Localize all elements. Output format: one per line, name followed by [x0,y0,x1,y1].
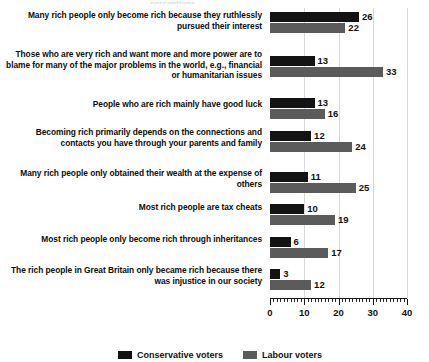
bar-value-label: 16 [328,109,339,119]
tick-minor [308,299,309,302]
x-tick-label: 20 [333,307,344,318]
tick-minor [400,299,401,302]
bar-lab [270,142,352,152]
legend-swatch [118,351,132,359]
bar-value-label: 24 [355,142,366,152]
tick-minor [277,299,278,302]
tick-minor [356,299,357,302]
bar-value-label: 19 [338,215,349,225]
bar-cons [270,98,315,108]
tick-minor [376,299,377,302]
tick-minor [328,299,329,302]
tick-minor [342,299,343,302]
tick-minor [318,299,319,302]
category-label: Many rich people only become rich becaus… [0,10,262,31]
category-label: Becoming rich primarily depends on the c… [0,127,262,148]
x-tick-label: 30 [367,307,378,318]
tick-major-30 [373,299,374,305]
tick-major-0 [270,299,271,305]
legend-item: Labour voters [243,350,322,360]
grouped-bar-chart: Many rich people only become rich becaus… [0,0,429,362]
tick-minor [280,299,281,302]
tick-minor [404,299,405,302]
tick-major-20 [339,299,340,305]
tick-minor [386,299,387,302]
bar-value-label: 10 [307,204,318,214]
x-axis: 010203040 [270,298,407,322]
bar-lab [270,215,335,225]
x-tick-label: 40 [402,307,413,318]
bar-group: 312 [270,269,407,293]
legend-item: Conservative voters [118,350,223,360]
bar-group: 1316 [270,98,407,122]
bar-value-label: 13 [318,56,329,66]
tick-minor [311,299,312,302]
tick-minor [294,299,295,302]
bar-lab [270,183,356,193]
tick-minor [393,299,394,302]
tick-minor [349,299,350,302]
bar-value-label: 6 [294,237,299,247]
tick-minor [352,299,353,302]
bar-value-label: 12 [314,131,325,141]
bar-group: 1333 [270,56,407,80]
tick-minor [380,299,381,302]
category-label: Most rich people only become rich throug… [0,234,262,245]
bar-value-label: 12 [314,280,325,290]
bar-cons [270,12,359,22]
bar-value-label: 17 [331,248,342,258]
bar-value-label: 25 [359,183,370,193]
category-label: Most rich people are tax cheats [0,202,262,213]
bar-cons [270,56,315,66]
category-label: Those who are very rich and want more an… [0,49,262,81]
tick-minor [369,299,370,302]
tick-minor [397,299,398,302]
bar-value-label: 3 [283,269,288,279]
bar-cons [270,172,308,182]
tick-minor [335,299,336,302]
plot-area: 262213331316122411251019617312 [270,8,407,298]
gridline-40 [407,8,408,298]
tick-minor [359,299,360,302]
tick-minor [362,299,363,302]
bar-cons [270,269,280,279]
tick-minor [366,299,367,302]
legend-label: Conservative voters [137,350,223,360]
bar-group: 2622 [270,12,407,36]
tick-minor [284,299,285,302]
chart-legend: Conservative votersLabour voters [0,347,429,362]
tick-minor [291,299,292,302]
bar-lab [270,248,328,258]
category-label: Many rich people only obtained their wea… [0,168,262,189]
tick-minor [332,299,333,302]
bar-value-label: 22 [348,23,359,33]
tick-minor [297,299,298,302]
x-tick-label: 0 [267,307,272,318]
bar-lab [270,67,383,77]
tick-minor [287,299,288,302]
bar-lab [270,280,311,290]
tick-minor [315,299,316,302]
tick-minor [345,299,346,302]
bar-value-label: 26 [362,12,373,22]
bar-cons [270,204,304,214]
tick-major-10 [304,299,305,305]
tick-minor [321,299,322,302]
tick-minor [301,299,302,302]
tick-major-40 [407,299,408,305]
bar-value-label: 13 [318,98,329,108]
tick-minor [383,299,384,302]
legend-label: Labour voters [262,350,322,360]
bar-value-label: 11 [311,172,321,182]
category-label: People who are rich mainly have good luc… [0,99,262,110]
bar-group: 1224 [270,131,407,155]
bar-lab [270,23,345,33]
bar-group: 617 [270,237,407,261]
bar-group: 1019 [270,204,407,228]
x-tick-label: 10 [299,307,310,318]
legend-swatch [243,351,257,359]
category-label: The rich people in Great Britain only be… [0,265,262,286]
bar-lab [270,109,325,119]
tick-minor [273,299,274,302]
bar-cons [270,131,311,141]
